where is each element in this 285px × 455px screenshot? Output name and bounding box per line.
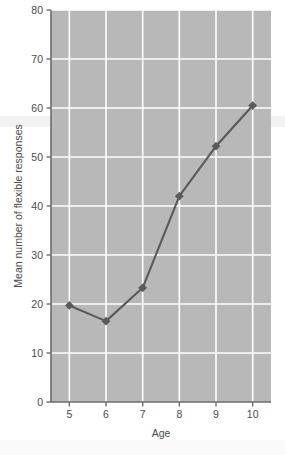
y-axis-tick-label: 0	[37, 396, 43, 408]
y-axis-tick-label: 80	[31, 4, 43, 16]
y-axis-tick-label: 70	[31, 53, 43, 65]
y-axis-tick-label: 50	[31, 151, 43, 163]
y-axis-tick-label: 60	[31, 102, 43, 114]
y-axis-tick-label: 40	[31, 200, 43, 212]
x-axis-tick-label: 9	[213, 408, 219, 420]
x-axis-tick-label: 6	[103, 408, 109, 420]
y-axis-tick-labels: 01020304050607080	[31, 4, 43, 408]
x-axis-tick-label: 5	[66, 408, 72, 420]
x-axis-tick-label: 8	[176, 408, 182, 420]
x-axis-tick-label: 7	[140, 408, 146, 420]
x-axis-tick-label: 10	[247, 408, 259, 420]
x-axis-tick-labels: 5678910	[66, 408, 258, 420]
y-axis-tick-label: 20	[31, 298, 43, 310]
chart-figure: 01020304050607080 5678910 Age Mean numbe…	[0, 0, 285, 455]
y-axis-title: Mean number of flexible responses	[12, 124, 24, 287]
y-axis-tick-label: 10	[31, 347, 43, 359]
y-axis-tick-label: 30	[31, 249, 43, 261]
line-chart: 01020304050607080 5678910 Age Mean numbe…	[0, 0, 285, 455]
x-axis-title: Age	[152, 427, 171, 439]
